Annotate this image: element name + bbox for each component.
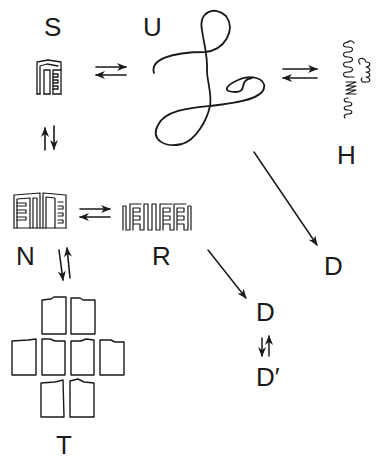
tile: [100, 340, 124, 375]
state-t-tiles: [12, 297, 124, 417]
tile: [42, 297, 66, 334]
tile: [42, 339, 65, 375]
arrow-s-u-reversible: [96, 67, 126, 75]
state-h-helix: [344, 41, 370, 118]
tile: [41, 380, 64, 417]
arrow-d-dprime-reversible: [262, 336, 269, 356]
state-s-structure: [37, 60, 61, 94]
state-r-ribbon: [123, 204, 191, 230]
state-n-structure: [14, 193, 66, 228]
tile: [71, 298, 95, 334]
tile: [71, 339, 94, 375]
tile: [70, 379, 94, 417]
tile: [12, 339, 36, 375]
state-u-coil: [153, 11, 264, 145]
arrow-u-h-reversible: [283, 69, 317, 78]
folding-diagram: [0, 0, 383, 464]
arrow-r-d-irreversible: [208, 250, 246, 298]
arrow-n-r-reversible: [80, 209, 110, 217]
arrow-u-d-irreversible: [254, 152, 317, 245]
arrow-s-n-reversible: [45, 126, 54, 150]
arrow-n-t-reversible: [59, 248, 70, 280]
